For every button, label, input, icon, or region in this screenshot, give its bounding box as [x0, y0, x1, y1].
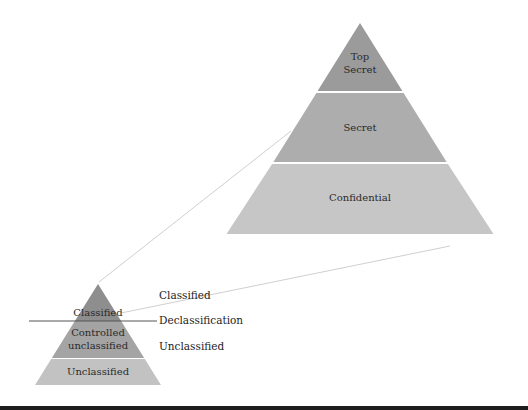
label-unclassified-band: Unclassified	[67, 366, 130, 377]
side-label-classified: Classified	[159, 289, 211, 301]
label-controlled-line2: unclassified	[68, 340, 129, 351]
label-secret: Secret	[343, 122, 376, 133]
label-confidential: Confidential	[329, 192, 391, 203]
classification-diagram: Top Secret Secret Confidential Classifie…	[0, 0, 528, 410]
label-classified: Classified	[73, 307, 123, 318]
side-label-unclassified: Unclassified	[159, 340, 224, 352]
zoom-connector-lower	[121, 246, 450, 313]
large-pyramid: Top Secret Secret Confidential	[227, 23, 494, 234]
bottom-border	[0, 406, 528, 410]
small-pyramid: Classified Controlled unclassified Uncla…	[35, 284, 161, 385]
label-top-secret-line1: Top	[351, 51, 369, 62]
label-controlled-line1: Controlled	[71, 327, 125, 338]
side-label-declassification: Declassification	[159, 314, 243, 326]
label-top-secret-line2: Secret	[343, 64, 376, 75]
